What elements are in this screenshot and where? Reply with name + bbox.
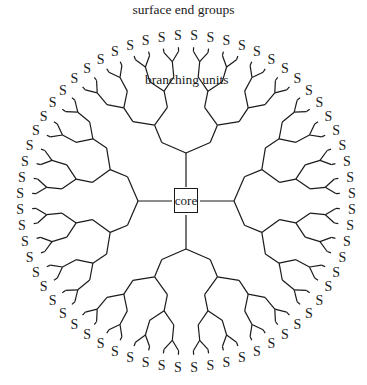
- bond-line: [62, 290, 65, 292]
- bond-line: [210, 125, 217, 142]
- end-group-s: S: [59, 306, 67, 321]
- bond-line: [250, 62, 252, 66]
- bond-line: [124, 108, 133, 122]
- bond-line: [205, 91, 208, 107]
- bond-line: [164, 340, 172, 349]
- bond-line: [50, 135, 62, 137]
- end-group-s: S: [267, 336, 275, 351]
- bond-line: [36, 208, 47, 214]
- bond-line: [237, 342, 238, 346]
- bond-line: [332, 164, 336, 165]
- bond-line: [128, 201, 139, 225]
- bond-line: [57, 267, 62, 278]
- bond-line: [62, 213, 76, 223]
- bond-line: [107, 232, 111, 254]
- bond-line: [205, 295, 208, 311]
- bond-line: [208, 349, 209, 353]
- bond-line: [310, 187, 325, 189]
- bond-line: [186, 143, 210, 154]
- bond-line: [210, 260, 217, 277]
- end-group-s: S: [16, 202, 24, 217]
- end-group-s: S: [71, 71, 79, 86]
- bond-line: [164, 311, 174, 325]
- bond-line: [155, 125, 162, 142]
- bond-line: [134, 342, 135, 346]
- end-group-s: S: [267, 52, 275, 67]
- end-group-s: S: [338, 250, 346, 265]
- bond-line: [97, 297, 107, 309]
- end-group-s: S: [97, 336, 105, 351]
- bond-line: [85, 90, 97, 93]
- end-group-s: S: [174, 360, 182, 375]
- bond-line: [279, 260, 296, 264]
- bond-line: [107, 69, 109, 72]
- bond-line: [78, 112, 90, 122]
- bond-line: [47, 213, 62, 215]
- bond-line: [145, 335, 149, 347]
- end-group-s: S: [142, 33, 150, 48]
- bond-line: [310, 213, 325, 215]
- bond-line: [322, 135, 326, 137]
- end-group-s: S: [32, 265, 40, 280]
- bond-line: [265, 139, 279, 148]
- bond-line: [315, 122, 318, 124]
- bond-line: [282, 280, 294, 290]
- bond-line: [164, 91, 167, 107]
- end-group-s: S: [158, 30, 166, 45]
- bond-line: [78, 280, 90, 290]
- bond-line: [222, 320, 226, 335]
- end-group-s: S: [83, 61, 91, 76]
- bond-line: [320, 237, 332, 241]
- end-group-s: S: [238, 350, 246, 365]
- end-group-s: S: [343, 234, 351, 249]
- bond-line: [41, 237, 53, 241]
- end-group-s: S: [222, 355, 230, 370]
- bond-line: [205, 107, 218, 125]
- bond-line: [63, 260, 77, 267]
- surface-end-groups-label: surface end groups: [0, 2, 367, 18]
- bond-line: [262, 148, 266, 170]
- bond-line: [200, 340, 208, 349]
- bond-line: [294, 290, 297, 302]
- bond-line: [263, 330, 265, 333]
- bond-line: [310, 265, 322, 267]
- end-group-s: S: [325, 109, 333, 124]
- bond-line: [320, 151, 327, 161]
- bond-line: [222, 56, 226, 68]
- bond-line: [163, 349, 164, 353]
- end-group-s: S: [338, 138, 346, 153]
- bond-line: [62, 109, 65, 111]
- bond-line: [252, 72, 263, 77]
- bond-line: [297, 302, 300, 305]
- bond-line: [248, 105, 265, 108]
- bond-line: [305, 160, 320, 164]
- bond-line: [47, 187, 62, 189]
- bond-line: [155, 277, 168, 295]
- bond-line: [38, 215, 47, 223]
- bond-line: [250, 325, 252, 337]
- bond-line: [275, 81, 276, 93]
- end-group-s: S: [18, 218, 26, 233]
- bond-line: [245, 311, 252, 325]
- bond-line: [325, 215, 334, 223]
- bond-line: [72, 98, 75, 101]
- bond-line: [262, 232, 266, 254]
- bond-line: [248, 294, 265, 297]
- bond-line: [107, 105, 124, 108]
- bond-line: [164, 53, 172, 62]
- bond-line: [155, 260, 162, 277]
- end-group-s: S: [253, 44, 261, 59]
- end-group-s: S: [59, 83, 67, 98]
- end-group-s: S: [190, 360, 198, 375]
- bond-line: [110, 225, 127, 232]
- bond-line: [279, 263, 282, 280]
- bond-line: [145, 56, 149, 68]
- bond-line: [83, 312, 86, 315]
- bond-line: [275, 90, 287, 93]
- end-group-s: S: [71, 317, 79, 332]
- bond-line: [275, 322, 277, 325]
- end-group-s: S: [158, 358, 166, 373]
- bond-line: [50, 265, 62, 267]
- bond-line: [76, 179, 92, 182]
- end-group-s: S: [111, 44, 119, 59]
